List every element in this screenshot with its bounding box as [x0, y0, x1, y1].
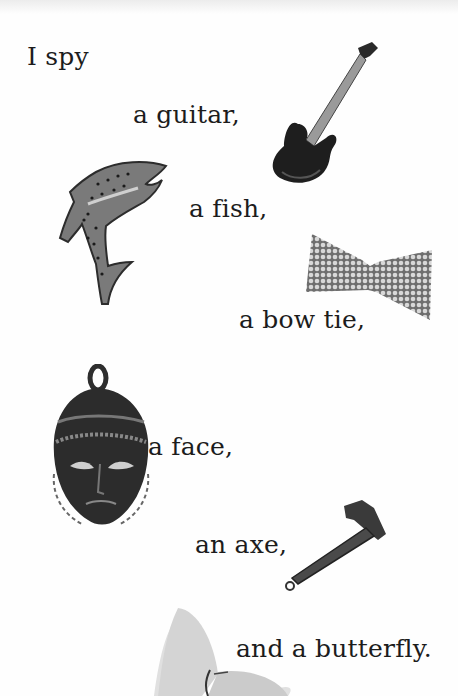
guitar-image [262, 38, 382, 186]
axe-image [282, 498, 398, 594]
butterfly-image [148, 602, 298, 696]
text-fish: a fish, [189, 194, 267, 223]
text-axe: an axe, [195, 530, 287, 559]
text-i-spy: I spy [27, 42, 89, 71]
face-pendant-image [48, 364, 154, 532]
bow-tie-image [302, 230, 438, 324]
fish-image [58, 158, 172, 308]
text-face: a face, [148, 432, 233, 461]
page-top-shadow [0, 0, 458, 14]
text-guitar: a guitar, [133, 100, 240, 129]
